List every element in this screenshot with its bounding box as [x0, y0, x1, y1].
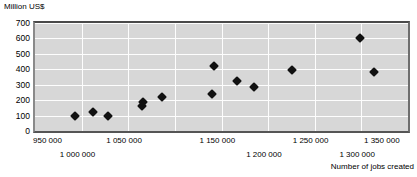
y-axis-tick-label: 0: [2, 127, 30, 136]
y-axis-tick-label: 100: [2, 112, 30, 121]
x-axis-tick-label: 1 150 000: [200, 137, 236, 145]
plot-inner: [35, 23, 408, 131]
data-point: [70, 111, 80, 121]
y-axis-tick-label: 700: [2, 19, 30, 28]
gridline-vertical: [268, 23, 269, 131]
x-axis-title: Number of jobs created: [331, 162, 414, 171]
data-point: [103, 111, 113, 121]
x-axis-tick-label: 1 250 000: [293, 137, 329, 145]
data-point: [249, 82, 259, 92]
x-axis-tick-label: 950 000: [33, 137, 62, 145]
y-axis-tick-label: 400: [2, 65, 30, 74]
data-point: [287, 65, 297, 75]
y-axis-tick-label: 300: [2, 81, 30, 90]
x-axis-tick-label: 1 300 000: [339, 151, 375, 159]
data-point: [355, 33, 365, 43]
y-axis-tick-label: 600: [2, 34, 30, 43]
x-axis-tick-label: 1 350 000: [364, 137, 400, 145]
gridline-vertical: [128, 23, 129, 131]
data-point: [207, 89, 217, 99]
scatter-chart-figure: Million US$ 0100200300400500600700 950 0…: [0, 0, 417, 177]
gridline-vertical: [222, 23, 223, 131]
plot-area: [33, 21, 410, 133]
x-axis-tick-label: 1 050 000: [106, 137, 142, 145]
x-axis-tick-label: 1 200 000: [246, 151, 282, 159]
gridline-vertical: [175, 23, 176, 131]
y-axis-tick-label: 500: [2, 50, 30, 59]
gridline-vertical: [82, 23, 83, 131]
x-axis-tick-label: 1 000 000: [60, 151, 96, 159]
y-axis-tick-label: 200: [2, 96, 30, 105]
y-axis-tick-labels: 0100200300400500600700: [0, 0, 30, 177]
gridline-vertical: [315, 23, 316, 131]
